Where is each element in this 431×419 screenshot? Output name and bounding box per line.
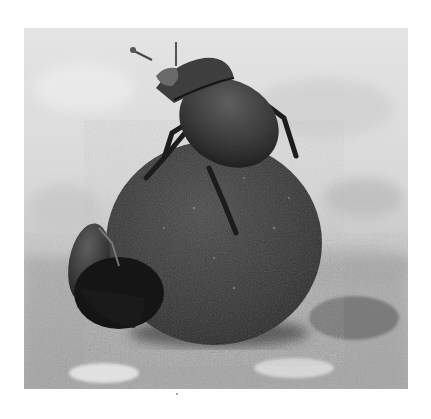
- photo-illustration: [24, 28, 408, 389]
- dung-beetle-photo: [24, 28, 408, 389]
- image-speck: [176, 393, 178, 395]
